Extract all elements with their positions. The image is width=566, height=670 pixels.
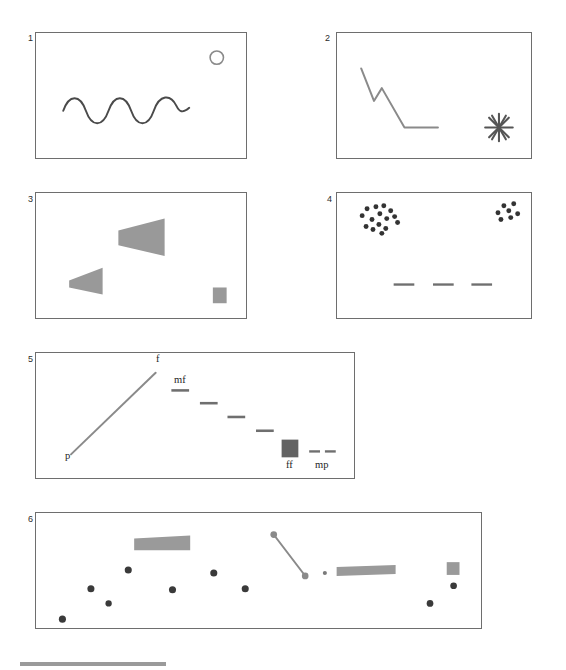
panel-number-1: 1 bbox=[28, 34, 33, 43]
dynamic-label-mp: mp bbox=[315, 460, 328, 471]
small-wedge-shape bbox=[69, 268, 102, 295]
panel-number-5: 5 bbox=[28, 355, 33, 364]
panel-6-graphics bbox=[36, 513, 481, 628]
dynamic-label-p: p bbox=[65, 451, 70, 462]
dynamic-label-f: f bbox=[156, 354, 160, 365]
tapered-bar-left bbox=[134, 536, 190, 551]
circle-outline bbox=[210, 51, 223, 64]
panel-number-6: 6 bbox=[28, 515, 33, 524]
panel-2-graphics bbox=[337, 33, 531, 158]
figure-canvas: 1 2 3 4 bbox=[0, 0, 566, 670]
wavy-line bbox=[63, 98, 189, 124]
descending-dashes bbox=[171, 390, 273, 430]
panel-3[interactable] bbox=[35, 192, 247, 319]
panel-1[interactable] bbox=[35, 32, 247, 159]
panel-2[interactable] bbox=[336, 32, 532, 159]
panel-4[interactable] bbox=[336, 192, 532, 319]
dark-gray-square bbox=[282, 440, 299, 458]
asterisk-burst bbox=[485, 114, 513, 142]
scale-bar bbox=[20, 662, 166, 666]
panel-3-graphics bbox=[36, 193, 246, 318]
dot-cluster-small bbox=[496, 201, 521, 222]
panel-6[interactable] bbox=[35, 512, 482, 629]
panel-number-4: 4 bbox=[327, 195, 332, 204]
large-wedge-shape bbox=[118, 219, 164, 256]
panel-1-graphics bbox=[36, 33, 246, 158]
diagonal-endpoint-dot-bottom bbox=[302, 573, 309, 580]
dynamic-label-ff: ff bbox=[286, 460, 293, 471]
gray-square bbox=[447, 562, 460, 575]
dot-cluster-large bbox=[360, 203, 400, 235]
rising-diagonal-line bbox=[71, 373, 156, 455]
panel-number-2: 2 bbox=[325, 34, 330, 43]
dynamic-label-mf: mf bbox=[174, 375, 186, 386]
descending-zigzag-line bbox=[361, 68, 438, 127]
panel-number-3: 3 bbox=[28, 195, 33, 204]
diagonal-endpoint-dot-top bbox=[270, 531, 277, 538]
scattered-dots bbox=[59, 566, 457, 622]
panel-4-graphics bbox=[337, 193, 531, 318]
gray-square bbox=[213, 287, 227, 303]
tiny-dot bbox=[323, 571, 327, 575]
diagonal-connector-line bbox=[274, 535, 305, 576]
panel-5[interactable]: p f mf ff mp bbox=[35, 352, 355, 479]
tapered-bar-right bbox=[337, 565, 396, 576]
panel-5-graphics bbox=[36, 353, 354, 478]
